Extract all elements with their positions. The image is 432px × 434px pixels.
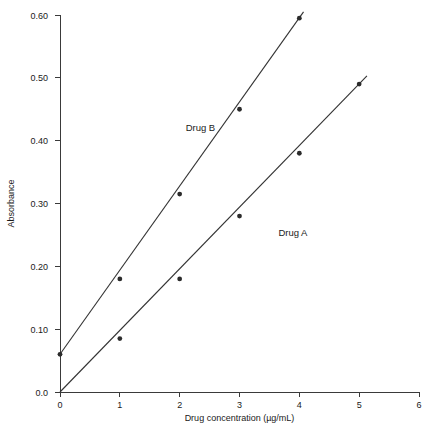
data-point-drug-b	[297, 16, 302, 21]
series-label-drug-b: Drug B	[186, 122, 216, 133]
data-point-drug-a	[357, 82, 362, 87]
absorbance-vs-concentration-chart: 0.00.100.200.300.400.500.60 0123456 Drug…	[0, 0, 432, 434]
data-point-drug-b	[117, 277, 122, 282]
data-point-drug-a	[177, 277, 182, 282]
y-tick-label: 0.30	[30, 199, 48, 209]
series-label-drug-a: Drug A	[278, 227, 308, 238]
x-axis-ticks: 0123456	[57, 392, 421, 410]
data-point-drug-b	[177, 192, 182, 197]
y-tick-label: 0.10	[30, 325, 48, 335]
y-tick-label: 0.40	[30, 136, 48, 146]
figure-container: 0.00.100.200.300.400.500.60 0123456 Drug…	[0, 0, 432, 434]
y-tick-label: 0.0	[35, 388, 48, 398]
y-tick-label: 0.60	[30, 11, 48, 21]
y-tick-label: 0.50	[30, 73, 48, 83]
x-tick-label: 0	[57, 400, 62, 410]
axis-lines	[60, 15, 419, 392]
series-line-drug-b	[60, 12, 304, 354]
y-axis-title: Absorbance	[6, 179, 16, 227]
x-tick-label: 2	[177, 400, 182, 410]
x-tick-label: 4	[297, 400, 302, 410]
data-point-drug-a	[297, 151, 302, 156]
x-tick-label: 3	[237, 400, 242, 410]
y-axis-ticks: 0.00.100.200.300.400.500.60	[30, 11, 60, 398]
data-point-drug-b	[237, 107, 242, 112]
data-point-drug-b	[58, 352, 63, 357]
series-labels: Drug BDrug A	[186, 122, 308, 238]
data-series	[58, 12, 367, 392]
x-axis-title: Drug concentration (µg/mL)	[185, 413, 295, 423]
y-tick-label: 0.20	[30, 262, 48, 272]
x-tick-label: 6	[416, 400, 421, 410]
x-tick-label: 1	[117, 400, 122, 410]
data-point-drug-a	[237, 214, 242, 219]
data-point-drug-a	[117, 336, 122, 341]
x-tick-label: 5	[357, 400, 362, 410]
